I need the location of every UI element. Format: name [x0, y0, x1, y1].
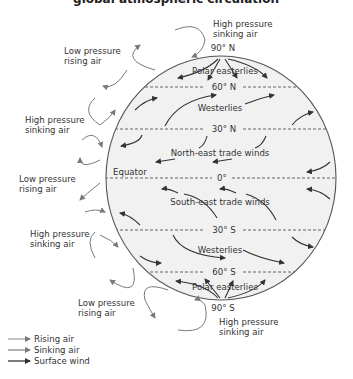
legend-surface-wind: Surface wind — [34, 356, 90, 366]
left-5-pressure-label-1: Low pressure — [78, 298, 135, 308]
lat-60s-label: 60° S — [212, 267, 235, 277]
diagram-title: global atmospheric circulation — [73, 0, 279, 6]
lat-90s-label: 90° S — [211, 303, 234, 313]
left-4-pressure-label-2: sinking air — [30, 239, 75, 249]
legend-rising-air: Rising air — [34, 334, 75, 344]
left-1-pressure-label-1: Low pressure — [64, 46, 121, 56]
westerlies-south-label: Westerlies — [198, 245, 243, 255]
legend: Rising air Sinking air Surface wind — [8, 334, 90, 366]
bottom-pressure-label-2: sinking air — [219, 327, 264, 337]
lat-90n-label: 90° N — [211, 43, 235, 53]
lat-30s-label: 30° S — [212, 225, 235, 235]
ne-trade-winds-label: North-east trade winds — [171, 148, 270, 158]
left-3-pressure-label-1: Low pressure — [19, 174, 76, 184]
left-2-pressure-label-2: sinking air — [25, 125, 70, 135]
left-3-pressure-label-2: rising air — [19, 184, 57, 194]
bottom-pressure-label-1: High pressure — [219, 317, 279, 327]
lat-0-label: 0° — [217, 173, 227, 183]
westerlies-north-label: Westerlies — [198, 103, 243, 113]
left-1-pressure-label-2: rising air — [64, 56, 102, 66]
equator-label: Equator — [113, 167, 147, 177]
se-trade-winds-label: South-east trade winds — [170, 197, 270, 207]
lat-30n-label: 30° N — [212, 124, 236, 134]
polar-easterlies-north-label: Polar easterlies — [192, 66, 258, 76]
circulation-diagram: global atmospheric circulation 90° N 60°… — [0, 0, 353, 379]
left-2-pressure-label-1: High pressure — [25, 115, 85, 125]
left-5-pressure-label-2: rising air — [78, 308, 116, 318]
top-pressure-label-2: sinking air — [213, 29, 258, 39]
top-pressure-label-1: High pressure — [213, 19, 273, 29]
legend-sinking-air: Sinking air — [34, 345, 80, 355]
left-4-pressure-label-1: High pressure — [30, 229, 90, 239]
lat-60n-label: 60° N — [212, 82, 236, 92]
